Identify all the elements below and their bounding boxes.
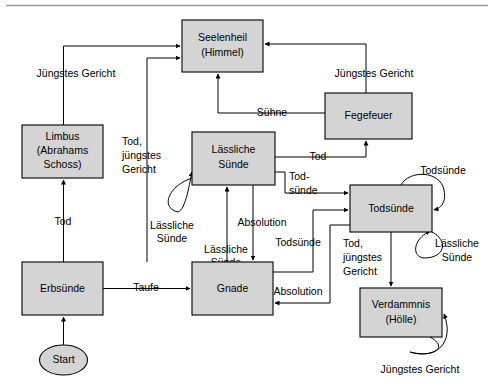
edge-fegefeuer-to-seelenheil: Jüngstes Gericht [265, 44, 413, 93]
edge-label-todsuende-self-top: Todsünde [420, 164, 466, 176]
node-seelenheil-label-line2: (Himmel) [201, 46, 244, 58]
edge-label-tod-juengstes-l2: jüngstes [121, 149, 161, 161]
edge-label-todsuende-hyphen-l2: sünde [289, 184, 318, 196]
edge-label-tod-juengstes-l1: Tod, [122, 135, 142, 147]
node-fegefeuer[interactable]: Fegefeuer [325, 93, 412, 139]
edge-label-juengstes-gericht-left: Jüngstes Gericht [37, 67, 116, 79]
edge-label-laessliche-up-l1: Lässliche [204, 243, 248, 255]
flowchart-svg: Tod Jüngstes Gericht Taufe Tod, jüngstes… [0, 0, 494, 387]
edge-label-juengstes-gericht-bottom: Jüngstes Gericht [381, 363, 460, 375]
node-limbus-label-line2: (Abrahams [37, 144, 88, 156]
node-laessliche-suende[interactable]: Lässliche Sünde [192, 132, 275, 185]
edge-erbsuende-to-gnade: Taufe [103, 281, 190, 293]
edge-fegefeuer-to-seelenheil-suehne: Sühne [218, 74, 325, 118]
node-start[interactable]: Start [40, 345, 88, 375]
edge-todsuende-to-verdammnis: Tod, jüngstes Gericht [342, 232, 391, 286]
node-gnade[interactable]: Gnade [192, 262, 273, 315]
state-diagram-canvas: Tod Jüngstes Gericht Taufe Tod, jüngstes… [0, 0, 494, 387]
node-erbsuende-label: Erbsünde [40, 282, 85, 294]
edge-laessliche-self-loop: Lässliche Sünde [150, 172, 194, 244]
edge-label-laessliche-self-l1: Lässliche [150, 219, 194, 231]
node-verdammnis[interactable]: Verdammnis (Hölle) [360, 288, 442, 337]
edge-label-tod-juengstes-r-l3: Gericht [343, 265, 377, 277]
edge-todsuende-self-bottom: Lässliche Sünde [416, 231, 479, 263]
node-todsuende[interactable]: Todsünde [350, 185, 432, 232]
node-seelenheil-label-line1: Seelenheil [198, 31, 247, 43]
node-todsuende-label: Todsünde [368, 202, 414, 214]
edge-label-tod-left: Tod [55, 215, 72, 227]
edge-label-absolution-low: Absolution [273, 285, 322, 297]
node-start-label: Start [52, 353, 74, 365]
edge-label-laessliche-self-l2: Sünde [157, 232, 188, 244]
edge-label-juengstes-gericht-right: Jüngstes Gericht [335, 67, 414, 79]
edge-laessliche-to-fegefeuer: Tod [275, 141, 366, 162]
edge-label-tod-juengstes-r-l1: Tod, [343, 237, 363, 249]
node-gnade-label: Gnade [217, 282, 249, 294]
edge-label-todsuende-hyphen-l1: Tod- [289, 170, 310, 182]
edge-label-tod-juengstes-l3: Gericht [122, 163, 156, 175]
edge-erbsuende-to-limbus: Tod [55, 180, 72, 262]
edge-label-tod-juengstes-r-l2: jüngstes [342, 251, 382, 263]
edge-label-laessliche-self-right-l2: Sünde [442, 251, 473, 263]
edge-label-todsuende-mid: Todsünde [275, 236, 321, 248]
node-fegefeuer-label: Fegefeuer [345, 109, 393, 121]
edge-label-taufe: Taufe [133, 281, 159, 293]
node-laessliche-label-line2: Sünde [218, 158, 249, 170]
node-erbsuende[interactable]: Erbsünde [22, 262, 103, 315]
node-laessliche-label-line1: Lässliche [212, 143, 256, 155]
node-limbus[interactable]: Limbus (Abrahams Schoss) [22, 125, 103, 178]
node-limbus-label-line1: Limbus [46, 130, 80, 142]
node-limbus-label-line3: Schoss) [44, 158, 82, 170]
edge-label-tod-right: Tod [310, 150, 327, 162]
node-verdammnis-label-line2: (Hölle) [386, 313, 417, 325]
edge-laessliche-to-todsuende: Tod- sünde [275, 170, 348, 196]
edge-label-absolution-mid: Absolution [237, 216, 286, 228]
node-verdammnis-label-line1: Verdammnis [372, 298, 430, 310]
node-seelenheil[interactable]: Seelenheil (Himmel) [182, 20, 263, 72]
edge-label-suehne: Sühne [257, 106, 288, 118]
edge-label-laessliche-self-right-l1: Lässliche [435, 237, 479, 249]
